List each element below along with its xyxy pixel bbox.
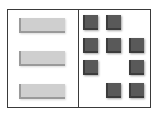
bar-block-2 <box>19 51 65 66</box>
square-block-r2-c2 <box>129 60 144 75</box>
panel-divider <box>78 9 79 107</box>
bar-block-1 <box>19 18 65 33</box>
square-block-r0-c0 <box>83 15 98 30</box>
square-block-r1-c1 <box>106 38 121 53</box>
diagram-canvas <box>0 0 161 119</box>
bar-block-3 <box>19 84 65 99</box>
square-block-r3-c1 <box>106 83 121 98</box>
square-block-r2-c0 <box>83 60 98 75</box>
square-block-r0-c1 <box>106 15 121 30</box>
square-block-r3-c2 <box>129 83 144 98</box>
square-block-r1-c0 <box>83 38 98 53</box>
square-block-r1-c2 <box>129 38 144 53</box>
